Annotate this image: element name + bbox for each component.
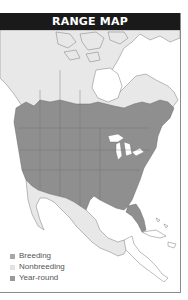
caribbean-islands [142,218,176,248]
breeding-swatch [10,254,15,259]
map-legend: Breeding Nonbreeding Year-round [10,251,65,284]
year-round-swatch [10,276,15,281]
range-map-title: RANGE MAP [0,13,180,30]
central-america [124,236,168,282]
nonbreeding-swatch [10,265,15,270]
legend-item-breeding: Breeding [10,251,65,261]
legend-item-nonbreeding: Nonbreeding [10,262,65,272]
range-map-card: RANGE MAP [0,13,181,293]
florida [126,204,146,232]
legend-item-year-round: Year-round [10,273,65,283]
